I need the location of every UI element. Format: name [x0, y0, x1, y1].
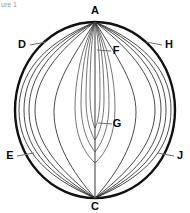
figure-container: ure 1 A C D E: [0, 0, 190, 213]
label-D: D: [18, 38, 26, 50]
label-F: F: [113, 44, 120, 56]
sphere-meridian-diagram: ure 1 A C D E: [0, 0, 190, 213]
figure-caption-fragment: ure 1: [1, 1, 17, 8]
label-J: J: [177, 149, 183, 161]
label-C: C: [91, 200, 99, 212]
label-H: H: [165, 38, 173, 50]
label-G: G: [113, 117, 122, 129]
label-E: E: [6, 149, 13, 161]
label-A: A: [91, 4, 99, 16]
